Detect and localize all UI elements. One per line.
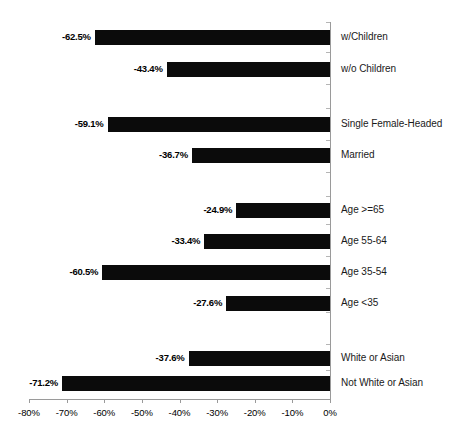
bar [204, 234, 330, 249]
axis-inner-tick [326, 312, 330, 313]
bar [236, 203, 330, 218]
x-tick-mark [29, 399, 30, 403]
axis-inner-tick [326, 196, 330, 197]
bar-value-label: -24.9% [188, 204, 232, 215]
bar [62, 376, 330, 391]
bar-value-label: -60.5% [54, 266, 98, 277]
bar-value-label: -43.4% [119, 63, 163, 74]
bar-value-label: -33.4% [156, 235, 200, 246]
category-label: Not White or Asian [341, 377, 423, 388]
x-tick-label: -80% [18, 407, 40, 418]
axis-inner-tick [326, 256, 330, 257]
x-tick-mark [67, 399, 68, 403]
bar [108, 117, 330, 132]
category-label: White or Asian [341, 352, 405, 363]
axis-inner-tick [326, 52, 330, 53]
x-tick-label: -30% [206, 407, 228, 418]
axis-inner-tick [326, 344, 330, 345]
x-tick-label: -60% [93, 407, 115, 418]
category-label: Age 35-54 [341, 266, 387, 277]
x-tick-mark [292, 399, 293, 403]
x-tick-mark [217, 399, 218, 403]
x-tick-label: -70% [56, 407, 78, 418]
axis-inner-tick [326, 172, 330, 173]
bar [192, 148, 330, 163]
axis-inner-tick [326, 140, 330, 141]
x-tick-label: -20% [244, 407, 266, 418]
category-label: Age <35 [341, 297, 378, 308]
bar-chart: -62.5%-43.4%-59.1%-36.7%-24.9%-33.4%-60.… [0, 0, 458, 438]
category-label: w/o Children [341, 63, 396, 74]
category-label: Married [341, 149, 375, 160]
category-label: w/Children [341, 31, 388, 42]
x-tick-mark [104, 399, 105, 403]
x-tick-mark [330, 399, 331, 403]
bar [95, 30, 330, 45]
axis-inner-tick [326, 108, 330, 109]
x-tick-mark [255, 399, 256, 403]
zero-axis-line [330, 22, 331, 400]
bar-value-label: -27.6% [178, 297, 222, 308]
x-tick-mark [142, 399, 143, 403]
axis-inner-tick [326, 22, 330, 23]
bar-value-label: -59.1% [60, 118, 104, 129]
bar [167, 62, 330, 77]
bar [102, 265, 330, 280]
x-tick-mark [180, 399, 181, 403]
axis-inner-tick [326, 224, 330, 225]
axis-inner-tick [326, 84, 330, 85]
x-tick-label: -40% [169, 407, 191, 418]
plot-area: -62.5%-43.4%-59.1%-36.7%-24.9%-33.4%-60.… [0, 0, 458, 438]
bar-value-label: -71.2% [14, 377, 58, 388]
axis-inner-tick [326, 288, 330, 289]
bar-value-label: -36.7% [144, 149, 188, 160]
category-label: Single Female-Headed [341, 118, 442, 129]
x-tick-label: -50% [131, 407, 153, 418]
axis-inner-tick [326, 370, 330, 371]
bar-value-label: -37.6% [141, 352, 185, 363]
category-label: Age 55-64 [341, 235, 387, 246]
x-tick-label: -10% [281, 407, 303, 418]
category-label: Age >=65 [341, 204, 384, 215]
bar-value-label: -62.5% [47, 31, 91, 42]
bar [226, 296, 330, 311]
x-tick-label: 0% [323, 407, 337, 418]
bar [189, 351, 330, 366]
